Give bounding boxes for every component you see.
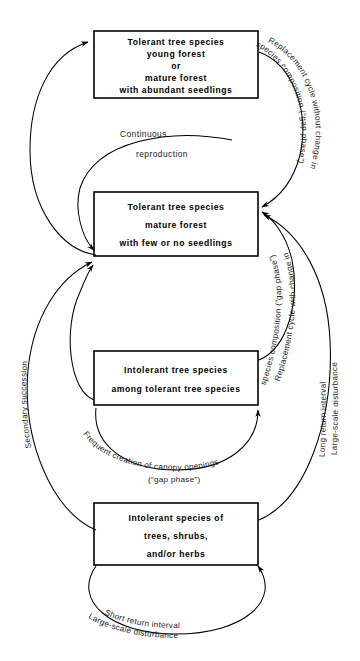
box-tolerant-young-line-5: with abundant seedlings [119, 85, 233, 95]
box-tolerant-young-line-3: or [171, 61, 181, 71]
label-long-return-interval-path: Long return interval [317, 381, 328, 457]
arrow-secondary-succession [30, 42, 96, 255]
label-long-return-interval: Long return interval [317, 381, 328, 457]
arrow-replacement-no-change [259, 52, 303, 207]
label-secondary-succession: Secondary succession [19, 361, 33, 450]
label-frequent-creation: Frequent creation of canopy openings [81, 430, 219, 472]
box-intolerant-among-tolerant: Intolerant tree species among tolerant t… [94, 351, 258, 405]
label-secondary-succession-path: Secondary succession [19, 361, 33, 450]
box-tolerant-young-line-4: mature forest [145, 73, 207, 83]
box-tolerant-mature: Tolerant tree species mature forest with… [94, 192, 258, 256]
box-intolerant-species-line-2: trees, shrubs, [144, 531, 208, 541]
arrow-gapphase-left-up [70, 265, 94, 400]
box-tolerant-mature-line-3: with few or no seedlings [119, 238, 233, 248]
label-frequent-creation-path: Frequent creation of canopy openings [81, 430, 219, 472]
box-tolerant-young-line-2: young forest [147, 49, 206, 59]
diagram-canvas: Tolerant tree species young forest or ma… [0, 0, 360, 661]
label-replacement-no-change-line2-path: species composition (“gap phase”) [255, 40, 309, 165]
box-intolerant-species-line-3: and/or herbs [147, 549, 206, 559]
label-frequent-gap-phase: (“gap phase”) [148, 475, 201, 484]
label-large-scale-disturbance-path: Large-scale disturbance [329, 361, 340, 455]
label-large-scale-disturbance: Large-scale disturbance [329, 361, 340, 455]
label-replacement-no-change-line2: species composition (“gap phase”) [255, 40, 309, 165]
box-intolerant-among-line-2: among tolerant tree species [112, 384, 241, 394]
box-intolerant-species-line-1: Intolerant species of [128, 513, 223, 523]
label-continuous: Continuous [120, 129, 167, 139]
arrow-secondary-succession-long [27, 262, 96, 530]
box-tolerant-mature-line-1: Tolerant tree species [128, 202, 225, 212]
label-reproduction: reproduction [136, 149, 188, 159]
box-tolerant-young: Tolerant tree species young forest or ma… [94, 31, 258, 98]
box-tolerant-young-line-1: Tolerant tree species [128, 37, 225, 47]
box-intolerant-among-line-1: Intolerant tree species [124, 365, 228, 375]
box-tolerant-mature-line-2: mature forest [145, 220, 207, 230]
box-intolerant-among-tolerant-rect [94, 351, 258, 405]
succession-diagram: Tolerant tree species young forest or ma… [0, 0, 360, 661]
box-intolerant-species: Intolerant species of trees, shrubs, and… [94, 503, 258, 565]
